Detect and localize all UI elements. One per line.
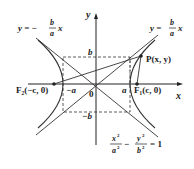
hyperbola-equation: x 2 a 2 − y 2 b 2 = 1 xyxy=(110,133,162,155)
asymptote-neg-equation: y = − b a x xyxy=(17,18,63,38)
svg-text:x: x xyxy=(57,23,63,33)
svg-text:y =: y = xyxy=(149,23,161,33)
y-axis-label: y xyxy=(85,9,91,20)
svg-text:x: x xyxy=(177,23,183,33)
focus-F2-point xyxy=(52,82,56,86)
hyperbola-diagram: x y 0 a −a b −b F₂(−c, 0) F₁(c, 0) P(x, … xyxy=(0,0,194,169)
point-P xyxy=(139,54,143,58)
svg-text:a: a xyxy=(112,146,116,155)
svg-text:−: − xyxy=(124,139,129,149)
neg-b-label: −b xyxy=(82,111,92,121)
svg-text:2: 2 xyxy=(142,133,145,138)
svg-text:a: a xyxy=(170,29,174,38)
svg-text:x: x xyxy=(111,134,116,143)
b-label: b xyxy=(88,47,93,57)
svg-text:2: 2 xyxy=(117,133,120,138)
a-label: a xyxy=(122,85,127,95)
x-axis-label: x xyxy=(175,90,181,101)
F2-label: F₂(−c, 0) xyxy=(16,85,48,95)
x-axis-arrow-icon xyxy=(177,82,183,86)
P-label: P(x, y) xyxy=(146,54,171,64)
svg-text:b: b xyxy=(137,146,141,155)
origin-label: 0 xyxy=(89,89,94,99)
svg-text:b: b xyxy=(50,18,54,27)
svg-text:2: 2 xyxy=(117,145,120,150)
line-F2-P xyxy=(54,56,141,84)
neg-a-label: −a xyxy=(66,85,76,95)
F1-label: F₁(c, 0) xyxy=(134,85,161,95)
asymptote-pos-equation: y = b a x xyxy=(149,18,183,38)
svg-text:2: 2 xyxy=(142,145,145,150)
svg-text:y: y xyxy=(136,134,141,143)
y-axis-arrow-icon xyxy=(94,13,98,19)
svg-text:= 1: = 1 xyxy=(150,139,162,149)
svg-text:b: b xyxy=(170,18,174,27)
svg-text:a: a xyxy=(50,29,54,38)
svg-text:y = −: y = − xyxy=(17,23,37,33)
